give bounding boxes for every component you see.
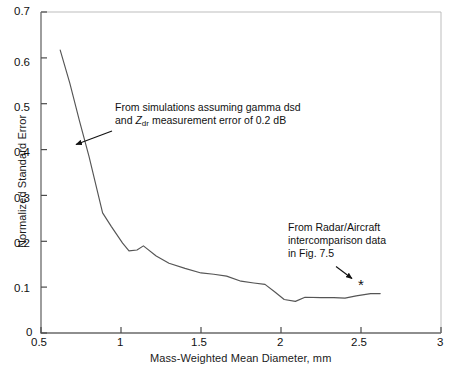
annotation-simulation-arrow: [76, 131, 112, 145]
x-tick-marks: [41, 327, 441, 333]
plot-area: *: [0, 0, 454, 371]
y-tick-marks: [41, 12, 47, 333]
figure-container: Normalized Standard Error Mass-Weighted …: [0, 0, 454, 371]
svg-text:*: *: [358, 276, 364, 293]
annotation-radar-arrow: [336, 267, 352, 279]
axis-frame: [41, 12, 441, 333]
data-series-line: [60, 50, 380, 301]
data-point-marker-asterisk: *: [358, 276, 364, 293]
